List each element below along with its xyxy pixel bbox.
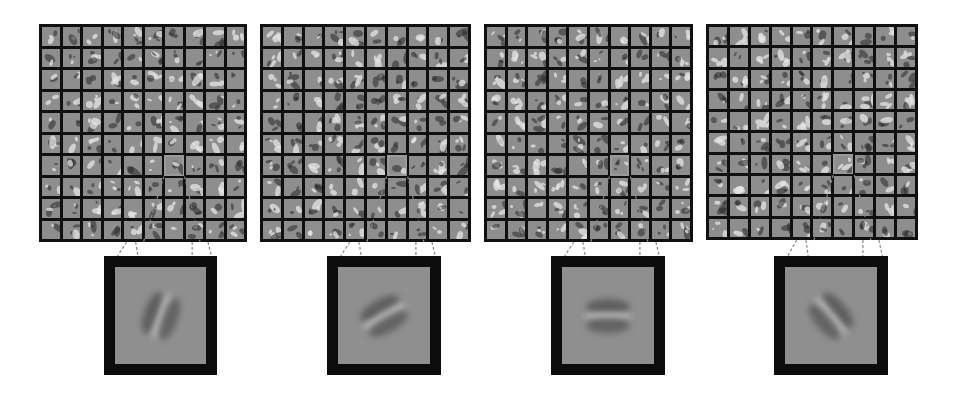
filter-patch (487, 135, 505, 154)
filter-texture (393, 36, 399, 41)
filter-texture (232, 30, 235, 36)
filter-patch (305, 135, 323, 154)
filter-texture (108, 140, 112, 143)
filter-texture (823, 56, 831, 66)
filter-texture (823, 188, 831, 194)
filter-patch (346, 221, 364, 240)
filter-texture (352, 206, 359, 214)
filter-patch (42, 221, 60, 240)
filter-texture (641, 167, 644, 172)
filter-patch (325, 135, 343, 154)
filter-texture (128, 211, 138, 217)
filter-patch (284, 92, 302, 111)
filter-patch (528, 199, 546, 218)
filter-patch (569, 221, 587, 240)
filter-texture (173, 50, 176, 54)
filter-texture (147, 98, 153, 102)
filter-patch (751, 112, 769, 130)
filter-texture (273, 77, 278, 82)
filter-patch (284, 27, 302, 46)
filter-patch (631, 70, 649, 89)
filter-texture (601, 117, 607, 120)
filter-patch (325, 178, 343, 197)
filter-texture (757, 125, 760, 130)
filter-patch (305, 49, 323, 68)
filter-patch (672, 49, 690, 68)
filter-texture (859, 189, 866, 194)
filter-texture (755, 163, 757, 166)
filter-patch (104, 156, 122, 175)
filter-texture (74, 204, 78, 210)
filter-texture (287, 102, 290, 105)
filter-patch (751, 197, 769, 215)
filter-patch (709, 48, 727, 66)
filter-texture (237, 99, 241, 104)
filter-texture (737, 54, 741, 60)
filter-texture (596, 187, 600, 195)
filter-texture (329, 233, 332, 236)
filter-texture (111, 147, 117, 153)
filter-texture (560, 180, 565, 189)
filter-texture (578, 182, 587, 192)
filter-patch (325, 113, 343, 132)
filter-texture (840, 185, 847, 192)
filter-patch (450, 156, 468, 175)
filter-texture (602, 100, 608, 107)
filter-patch (590, 135, 608, 154)
filter-texture (273, 104, 279, 109)
filter-texture (232, 104, 236, 108)
filter-patch (652, 135, 670, 154)
filter-texture (434, 52, 438, 60)
filter-patch (367, 92, 385, 111)
filter-texture (52, 167, 57, 171)
filter-texture (654, 139, 661, 147)
filter-texture (776, 118, 784, 123)
filter-texture (512, 186, 516, 192)
filter-patch (709, 91, 727, 109)
filter-patch (730, 27, 748, 45)
filter-texture (129, 145, 136, 153)
filter-patch (611, 221, 629, 240)
filter-texture (579, 49, 587, 58)
filter-patch (83, 221, 101, 240)
filter-patch (186, 113, 204, 132)
filter-patch (751, 70, 769, 88)
filter-texture (335, 57, 343, 63)
filter-patch (855, 197, 873, 215)
filter-texture (685, 122, 690, 131)
filter-patch (549, 113, 567, 132)
filter-texture (370, 29, 380, 38)
filter-texture (491, 118, 499, 127)
filter-texture (232, 51, 236, 55)
filter-patch (855, 70, 873, 88)
filter-texture (275, 97, 281, 103)
filter-texture (560, 121, 566, 129)
filter-grid-1 (39, 24, 247, 242)
filter-patch (672, 156, 690, 175)
filter-texture (541, 103, 546, 110)
filter-texture (511, 145, 515, 149)
filter-patch (813, 27, 831, 45)
filter-texture (731, 76, 739, 83)
filter-patch (305, 221, 323, 240)
filter-patch (508, 221, 526, 240)
filter-patch (346, 199, 364, 218)
filter-patch (145, 135, 163, 154)
filter-patch (42, 135, 60, 154)
filter-texture (293, 144, 300, 153)
filter-texture (888, 61, 890, 65)
filter-texture (271, 54, 276, 60)
filter-patch (569, 156, 587, 175)
filter-patch (876, 48, 894, 66)
filter-texture (355, 144, 362, 149)
filter-texture (739, 92, 745, 102)
filter-texture (175, 58, 180, 65)
filter-texture (395, 81, 399, 85)
filter-patch (186, 199, 204, 218)
filter-patch (611, 49, 629, 68)
filter-patch (104, 113, 122, 132)
enlarged-filter-image (562, 267, 654, 364)
filter-patch (305, 199, 323, 218)
filter-texture (518, 38, 522, 42)
filter-patch (409, 27, 427, 46)
